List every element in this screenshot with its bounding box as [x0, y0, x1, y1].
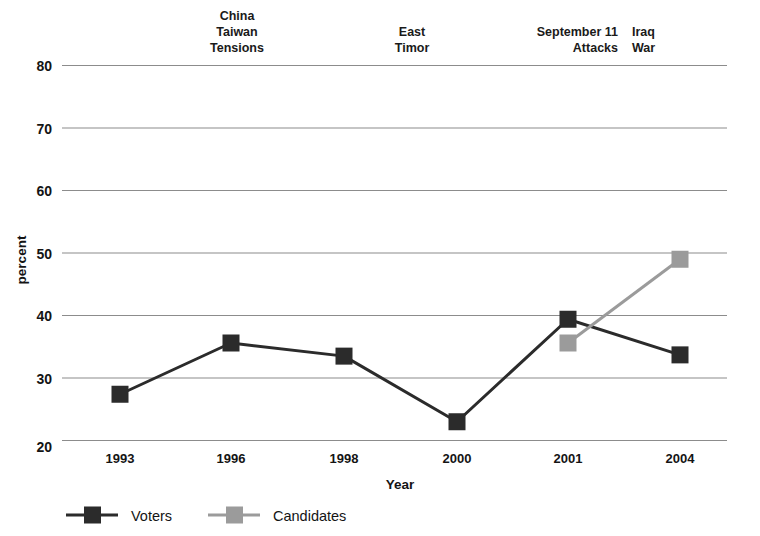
data-point-voters[interactable]: [560, 311, 577, 328]
annotation-line: Attacks: [573, 41, 618, 55]
annotation-line: War: [632, 41, 655, 55]
y-tick-label: 30: [36, 371, 52, 387]
x-tick-label: 1993: [106, 451, 135, 466]
data-series-layer: [112, 251, 689, 431]
y-axis-title: percent: [14, 235, 29, 284]
y-tick-label: 50: [36, 246, 52, 262]
data-point-candidates[interactable]: [672, 251, 689, 268]
annotation-iraq-war: Iraq War: [632, 25, 655, 55]
annotation-line: September 11: [537, 25, 618, 39]
data-point-voters[interactable]: [112, 386, 129, 403]
line-chart: 80 70 60 50 40 30 20 percent China Taiwa…: [0, 0, 760, 536]
annotation-line: Iraq: [632, 25, 655, 39]
annotation-line: East: [399, 25, 426, 39]
series-line-candidates: [568, 259, 680, 343]
x-tick-label: 2000: [443, 451, 472, 466]
annotation-line: Taiwan: [216, 25, 257, 39]
annotation-china-taiwan-tensions: China Taiwan Tensions: [210, 9, 264, 55]
legend-label-candidates: Candidates: [273, 508, 346, 524]
legend-item-candidates[interactable]: Candidates: [208, 507, 346, 525]
series-voters: [112, 311, 689, 431]
x-tick-label: 2004: [666, 451, 696, 466]
chart-container: 80 70 60 50 40 30 20 percent China Taiwa…: [0, 0, 760, 536]
data-point-candidates[interactable]: [560, 335, 577, 352]
legend-item-voters[interactable]: Voters: [66, 507, 172, 525]
legend-marker-voters: [84, 507, 101, 524]
annotation-line: Timor: [395, 41, 430, 55]
x-tick-label: 1996: [217, 451, 246, 466]
y-tick-label: 80: [36, 58, 52, 74]
x-axis-tick-labels: 1993 1996 1998 2000 2001 2004: [106, 451, 696, 466]
annotation-line: China: [220, 9, 256, 23]
legend: Voters Candidates: [66, 507, 346, 525]
y-tick-label: 70: [36, 121, 52, 137]
data-point-voters[interactable]: [223, 335, 240, 352]
annotation-east-timor: East Timor: [395, 25, 430, 55]
legend-marker-candidates: [226, 507, 243, 524]
data-point-voters[interactable]: [449, 413, 466, 430]
y-tick-label: 40: [36, 308, 52, 324]
x-tick-label: 2001: [554, 451, 583, 466]
y-tick-label: 60: [36, 183, 52, 199]
y-tick-label: 20: [36, 439, 52, 455]
series-line-voters: [120, 319, 680, 422]
legend-label-voters: Voters: [131, 508, 172, 524]
x-tick-label: 1998: [330, 451, 359, 466]
annotation-line: Tensions: [210, 41, 264, 55]
x-axis-title: Year: [386, 477, 415, 492]
y-axis-tick-labels: 80 70 60 50 40 30 20: [36, 58, 52, 455]
data-point-voters[interactable]: [336, 348, 353, 365]
data-point-voters[interactable]: [672, 346, 689, 363]
annotation-september-11-attacks: September 11 Attacks: [537, 25, 618, 55]
